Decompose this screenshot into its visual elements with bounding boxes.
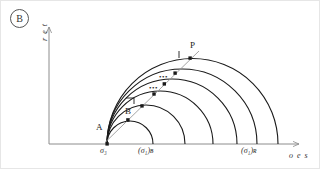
mohr-circle-figure: B bbox=[0, 0, 320, 169]
point-label-a: A bbox=[96, 122, 103, 132]
ellipsis-lower: ••• bbox=[149, 84, 158, 92]
point-label-p: P bbox=[190, 40, 195, 50]
x-axis-label: o e s bbox=[289, 151, 309, 160]
semicircles-group bbox=[107, 59, 278, 145]
contact-marker-4 bbox=[163, 82, 166, 85]
contact-marker-p bbox=[188, 56, 191, 59]
y-axis-label: r e t bbox=[40, 23, 56, 41]
semicircle-1 bbox=[107, 121, 153, 144]
ellipsis-upper: ••• bbox=[159, 73, 168, 81]
tick-label-sigma1-b: (σ₁)ʙ bbox=[138, 146, 154, 155]
contact-marker-b bbox=[126, 118, 129, 121]
axes-group bbox=[49, 27, 299, 144]
contact-marker-3 bbox=[152, 92, 155, 95]
contact-marker-2 bbox=[140, 104, 143, 107]
contact-marker-5 bbox=[173, 71, 176, 74]
tick-label-sigma3: σ₃ bbox=[100, 146, 107, 155]
semicircle-3 bbox=[107, 91, 213, 144]
point-label-b: B bbox=[125, 106, 131, 116]
tick-label-sigma1-p: (σ₁)ʀ bbox=[241, 146, 257, 155]
semicircle-6 bbox=[107, 59, 278, 145]
